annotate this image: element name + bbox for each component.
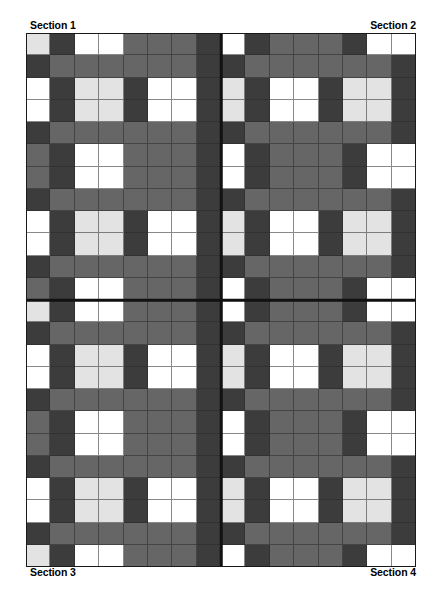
pattern-cell bbox=[392, 434, 416, 456]
pattern-cell bbox=[172, 55, 196, 77]
pattern-cell bbox=[75, 189, 99, 211]
pattern-cell bbox=[245, 411, 269, 433]
pattern-cell bbox=[148, 345, 172, 367]
pattern-cell bbox=[270, 389, 294, 411]
pattern-cell bbox=[172, 411, 196, 433]
pattern-cell bbox=[294, 523, 318, 545]
pattern-cell bbox=[245, 345, 269, 367]
pattern-cell bbox=[26, 456, 50, 478]
pattern-cell bbox=[124, 211, 148, 233]
pattern-cell bbox=[124, 523, 148, 545]
pattern-cell bbox=[270, 55, 294, 77]
pattern-cell bbox=[50, 322, 74, 344]
pattern-cell bbox=[75, 233, 99, 255]
pattern-cell bbox=[392, 100, 416, 122]
pattern-cell bbox=[124, 122, 148, 144]
pattern-cell bbox=[99, 78, 123, 100]
pattern-cell bbox=[50, 122, 74, 144]
pattern-cell bbox=[245, 500, 269, 522]
pattern-cell bbox=[245, 55, 269, 77]
pattern-cell bbox=[221, 211, 245, 233]
pattern-cell bbox=[245, 434, 269, 456]
pattern-cell bbox=[270, 100, 294, 122]
pattern-cell bbox=[343, 55, 367, 77]
pattern-cell bbox=[319, 478, 343, 500]
pattern-cell bbox=[343, 500, 367, 522]
pattern-cell bbox=[221, 389, 245, 411]
pattern-cell bbox=[75, 300, 99, 322]
pattern-cell bbox=[197, 33, 221, 55]
pattern-cell bbox=[343, 367, 367, 389]
pattern-cell bbox=[270, 256, 294, 278]
pattern-cell bbox=[197, 345, 221, 367]
pattern-cell bbox=[319, 33, 343, 55]
pattern-cell bbox=[319, 78, 343, 100]
pattern-cell bbox=[50, 523, 74, 545]
pattern-cell bbox=[75, 322, 99, 344]
pattern-cell bbox=[367, 189, 391, 211]
pattern-cell bbox=[26, 389, 50, 411]
pattern-cell bbox=[75, 33, 99, 55]
pattern-cell bbox=[26, 434, 50, 456]
pattern-cell bbox=[319, 434, 343, 456]
pattern-cell bbox=[221, 144, 245, 166]
pattern-cell bbox=[343, 322, 367, 344]
pattern-cell bbox=[99, 211, 123, 233]
pattern-cell bbox=[26, 189, 50, 211]
pattern-cell bbox=[148, 434, 172, 456]
pattern-cell bbox=[270, 78, 294, 100]
page-canvas: Section 1 Section 2 Section 3 Section 4 bbox=[0, 0, 442, 595]
pattern-cell bbox=[197, 189, 221, 211]
pattern-cell bbox=[367, 256, 391, 278]
pattern-cell bbox=[221, 322, 245, 344]
pattern-cell bbox=[26, 367, 50, 389]
pattern-cell bbox=[221, 278, 245, 300]
pattern-cell bbox=[75, 523, 99, 545]
pattern-cell bbox=[26, 122, 50, 144]
pattern-cell bbox=[294, 78, 318, 100]
pattern-cell bbox=[26, 345, 50, 367]
pattern-cell bbox=[367, 144, 391, 166]
pattern-cell bbox=[319, 189, 343, 211]
pattern-cell bbox=[245, 100, 269, 122]
pattern-cell bbox=[26, 300, 50, 322]
pattern-cell bbox=[197, 278, 221, 300]
pattern-cell bbox=[26, 523, 50, 545]
pattern-cell bbox=[245, 211, 269, 233]
pattern-cell bbox=[50, 345, 74, 367]
pattern-cell bbox=[245, 367, 269, 389]
pattern-cell bbox=[26, 100, 50, 122]
pattern-cell bbox=[197, 211, 221, 233]
pattern-cell bbox=[197, 478, 221, 500]
pattern-cell bbox=[367, 233, 391, 255]
pattern-cell bbox=[50, 500, 74, 522]
pattern-cell bbox=[392, 122, 416, 144]
pattern-cell bbox=[197, 78, 221, 100]
pattern-cell bbox=[99, 144, 123, 166]
pattern-cell bbox=[367, 167, 391, 189]
pattern-cell bbox=[270, 233, 294, 255]
pattern-cell bbox=[270, 478, 294, 500]
pattern-cell bbox=[270, 122, 294, 144]
pattern-cell bbox=[148, 478, 172, 500]
pattern-cell bbox=[392, 478, 416, 500]
pattern-cell bbox=[148, 55, 172, 77]
pattern-cell bbox=[319, 256, 343, 278]
pattern-cell bbox=[172, 545, 196, 567]
pattern-cell bbox=[124, 322, 148, 344]
pattern-cell bbox=[392, 167, 416, 189]
pattern-cell bbox=[245, 322, 269, 344]
pattern-cell bbox=[392, 300, 416, 322]
pattern-cell bbox=[270, 189, 294, 211]
pattern-cell bbox=[124, 300, 148, 322]
pattern-cell bbox=[26, 55, 50, 77]
pattern-cell bbox=[319, 345, 343, 367]
pattern-cell bbox=[392, 411, 416, 433]
pattern-cell bbox=[26, 322, 50, 344]
pattern-cell bbox=[172, 33, 196, 55]
pattern-cell bbox=[392, 389, 416, 411]
pattern-cell bbox=[319, 322, 343, 344]
pattern-cell bbox=[343, 100, 367, 122]
pattern-cell bbox=[99, 322, 123, 344]
pattern-cell bbox=[294, 33, 318, 55]
